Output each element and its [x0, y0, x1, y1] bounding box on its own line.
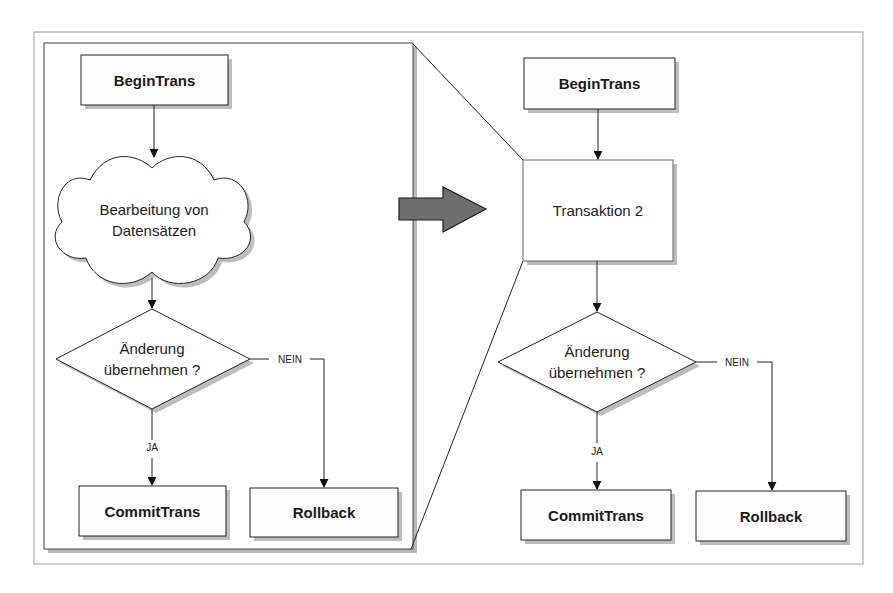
right-decision-node: Änderung übernehmen ?	[498, 312, 700, 416]
zoom-line-bottom	[411, 261, 523, 549]
left-rollback-label: Rollback	[293, 504, 356, 521]
right-decision-label-line1: Änderung	[564, 343, 629, 360]
zoom-line-top	[413, 44, 523, 160]
flowchart-canvas: BeginTrans Bearbeitung von Datensätzen Ä…	[0, 0, 893, 593]
left-decision-label-line2: übernehmen ?	[104, 361, 201, 378]
right-rollback-node: Rollback	[696, 491, 850, 545]
left-committrans-label: CommitTrans	[105, 503, 201, 520]
left-begintrans-label: BeginTrans	[114, 72, 196, 89]
left-begintrans-node: BeginTrans	[81, 55, 232, 109]
right-begintrans-node: BeginTrans	[524, 58, 679, 113]
left-process-label-line1: Bearbeitung von	[99, 201, 208, 218]
right-rollback-label: Rollback	[740, 508, 803, 525]
left-rollback-node: Rollback	[250, 488, 402, 541]
right-no-label: NEIN	[725, 357, 749, 368]
right-process-label: Transaktion 2	[553, 202, 643, 219]
left-process-label-line2: Datensätzen	[112, 222, 196, 239]
left-panel	[44, 43, 413, 549]
right-decision-label-line2: übernehmen ?	[549, 364, 646, 381]
left-decision-label-line1: Änderung	[119, 340, 184, 357]
left-no-label: NEIN	[278, 354, 302, 365]
left-yes-label: JA	[146, 442, 158, 453]
right-committrans-node: CommitTrans	[521, 490, 675, 544]
right-no-line-b	[757, 362, 772, 490]
right-yes-label: JA	[591, 446, 603, 457]
left-committrans-node: CommitTrans	[79, 486, 230, 540]
right-begintrans-label: BeginTrans	[559, 75, 641, 92]
right-committrans-label: CommitTrans	[548, 507, 644, 524]
right-process-node: Transaktion 2	[523, 160, 677, 265]
